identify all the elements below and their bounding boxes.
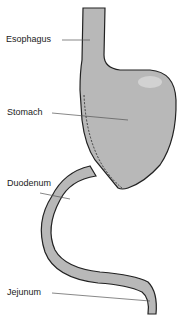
esophagus-stomach-shape: [80, 8, 176, 189]
label-duodenum: Duodenum: [7, 178, 51, 188]
label-stomach: Stomach: [7, 107, 43, 117]
digestive-tract-diagram: Esophagus Stomach Duodenum Jejunum: [0, 0, 183, 322]
jejunum-leader: [52, 293, 150, 301]
stomach-highlight: [138, 76, 162, 88]
label-esophagus: Esophagus: [6, 34, 51, 44]
organ-illustration: [0, 0, 183, 322]
label-jejunum: Jejunum: [7, 287, 41, 297]
duodenum-jejunum-shape: [41, 166, 156, 314]
